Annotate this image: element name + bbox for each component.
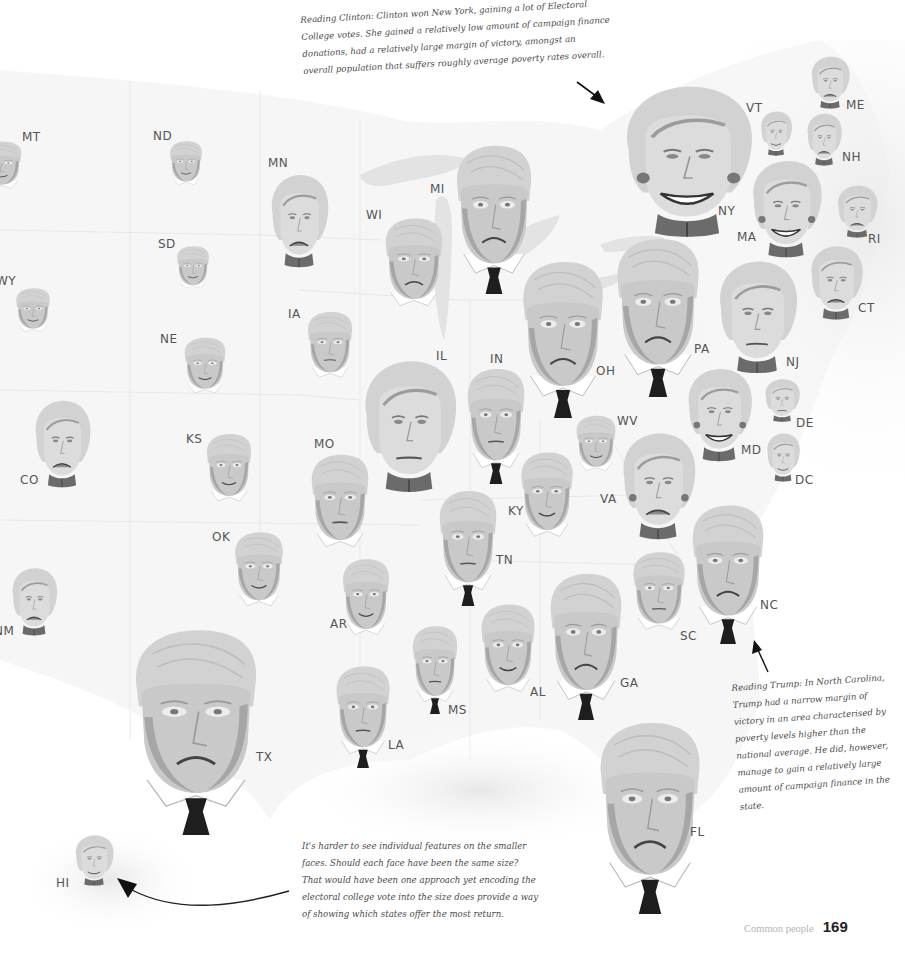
state-label-co: CO [20,473,39,487]
state-face-ga [546,570,626,720]
state-face-ia [305,310,355,388]
state-label-ri: RI [868,232,881,246]
state-face-mt [0,140,24,196]
state-face-tn [436,488,500,606]
trump-face-icon [182,336,228,402]
state-face-oh [518,258,608,418]
annotation-line: It's harder to see individual features o… [302,838,538,855]
clinton-face-icon [614,82,760,238]
state-face-al [478,602,538,706]
state-label-nh: NH [842,150,861,164]
state-label-ks: KS [186,432,203,446]
clinton-face-icon [834,184,880,238]
state-label-pa: PA [694,342,710,356]
state-label-mt: MT [22,130,41,144]
trump-face-icon [333,664,393,768]
state-face-tx [128,625,264,835]
state-face-ks [204,432,254,512]
annotation-line: electoral college vote into the size doe… [302,889,538,906]
state-face-ok [232,530,286,618]
clinton-face-icon [806,244,866,320]
state-label-in: IN [490,352,504,366]
state-label-ne: NE [160,332,178,346]
trump-face-icon [305,310,355,388]
state-label-nj: NJ [786,355,800,369]
state-label-sd: SD [158,237,176,251]
state-label-fl: FL [690,825,705,839]
state-label-tn: TN [496,553,513,567]
book-page: MT ND [0,0,905,954]
state-face-ky [518,450,576,550]
state-face-co [30,398,94,488]
state-label-ia: IA [288,307,301,321]
state-label-wi: WI [366,208,382,222]
state-label-md: MD [741,443,762,457]
trump-face-icon [232,530,286,618]
state-face-wy [14,287,52,339]
trump-face-icon [436,488,500,606]
clinton-face-icon [72,834,116,886]
state-label-ok: OK [212,530,230,544]
state-label-dc: DC [795,473,814,487]
state-face-il [356,357,462,493]
state-face-ri [834,184,880,238]
state-label-ar: AR [330,617,348,631]
state-face-ct [806,244,866,320]
trump-face-icon [594,718,706,914]
state-label-al: AL [530,685,546,699]
state-face-nc [688,502,768,644]
state-label-ny: NY [718,204,735,218]
state-face-hi [72,834,116,886]
clinton-face-icon [758,110,794,156]
state-label-mo: MO [314,437,335,451]
annotation-line: faces. Should each face have been the sa… [302,855,538,872]
state-label-ms: MS [448,703,467,717]
trump-face-icon [340,557,392,647]
page-number: 169 [823,918,848,935]
state-face-ne [182,336,228,402]
state-face-wi [382,216,446,320]
trump-face-icon [175,245,211,295]
trump-face-icon [14,287,52,339]
clinton-face-icon [30,398,94,488]
running-head: Common people [744,923,814,934]
state-label-tx: TX [256,750,273,764]
state-face-ny [614,82,760,238]
trump-face-icon [688,502,768,644]
state-face-ar [340,557,392,647]
state-face-sd [175,245,211,295]
trump-face-icon [546,570,626,720]
trump-face-icon [478,602,538,706]
trump-face-icon [204,432,254,512]
clinton-face-icon [356,357,462,493]
state-face-ms [410,624,460,714]
annotation-line: of showing which states offer the most r… [302,906,538,923]
state-label-ky: KY [508,504,524,518]
trump-annotation: Reading Trump: In North Carolina, Trump … [731,668,905,816]
state-face-nd [168,140,204,192]
face-size-annotation: It's harder to see individual features o… [302,838,538,923]
trump-face-icon [128,625,264,835]
state-label-ct: CT [858,301,875,315]
state-label-mi: MI [430,182,445,196]
trump-face-icon [574,414,618,480]
state-label-vt: VT [746,101,763,115]
trump-face-icon [168,140,204,192]
trump-face-icon [410,624,460,714]
state-label-va: VA [600,492,617,506]
clinton-face-icon [8,566,60,636]
state-label-nc: NC [760,598,778,612]
state-face-la [333,664,393,768]
state-label-hi: HI [56,876,70,890]
clinton-face-icon [266,172,332,268]
state-label-ma: MA [737,230,757,244]
trump-face-icon [0,140,24,196]
state-label-de: DE [796,416,814,430]
state-label-ga: GA [620,676,639,690]
state-face-nm [8,566,60,636]
trump-face-icon [382,216,446,320]
state-face-ma [746,158,826,258]
state-label-il: IL [436,349,447,363]
state-face-fl [594,718,706,914]
state-label-nd: ND [153,129,172,143]
